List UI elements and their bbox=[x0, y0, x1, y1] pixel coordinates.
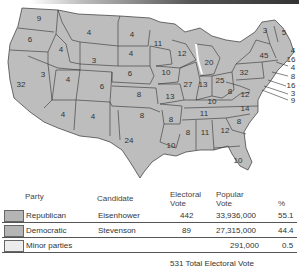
state-votes-al: 11 bbox=[201, 129, 209, 137]
candidate-cell: Eisenhower bbox=[98, 211, 140, 220]
swatch-democratic bbox=[4, 225, 24, 237]
percent-cell: 0.5 bbox=[282, 241, 293, 250]
header-popular: Popular Vote bbox=[216, 190, 246, 208]
state-votes-ar: 8 bbox=[169, 116, 173, 124]
header-electoral: Electoral Vote bbox=[170, 190, 200, 208]
us-electoral-map bbox=[0, 0, 299, 190]
table-row-republican: Republican Eisenhower 442 33,936,000 55.… bbox=[2, 208, 297, 223]
percent-cell: 55.1 bbox=[278, 211, 294, 220]
state-votes-wy: 3 bbox=[92, 57, 96, 65]
header-candidate: Candidate bbox=[97, 194, 133, 203]
table-row-democratic: Democratic Stevenson 89 27,315,000 44.4 bbox=[2, 223, 297, 238]
state-votes-sd: 4 bbox=[129, 50, 133, 58]
state-votes-tx: 24 bbox=[125, 137, 134, 145]
popular-cell: 27,315,000 bbox=[216, 226, 256, 235]
state-votes-mn: 11 bbox=[154, 40, 162, 48]
state-votes-ok: 8 bbox=[140, 112, 144, 120]
swatch-minor bbox=[4, 240, 24, 252]
header-party: Party bbox=[25, 192, 44, 201]
callout-votes: 4 bbox=[291, 64, 295, 72]
state-votes-co: 6 bbox=[100, 83, 104, 91]
state-votes-nd: 4 bbox=[130, 31, 134, 39]
party-cell: Minor parties bbox=[26, 241, 72, 250]
state-votes-ky: 10 bbox=[208, 98, 217, 106]
state-votes-ut: 4 bbox=[66, 76, 70, 84]
us-outline bbox=[8, 8, 294, 178]
total-electoral-vote: 531 Total Electoral Vote bbox=[170, 259, 254, 268]
state-votes-in: 13 bbox=[199, 81, 208, 89]
callout-votes: 5 bbox=[282, 29, 286, 37]
state-votes-or: 6 bbox=[28, 36, 32, 44]
candidate-cell: Stevenson bbox=[98, 226, 136, 235]
state-votes-wv: 8 bbox=[228, 88, 232, 96]
state-votes-ks: 8 bbox=[137, 91, 141, 99]
popular-cell: 291,000 bbox=[230, 241, 259, 250]
state-votes-tn: 11 bbox=[200, 110, 208, 118]
state-votes-la: 10 bbox=[167, 142, 176, 150]
table-row-minor: Minor parties 291,000 0.5 bbox=[2, 238, 297, 253]
state-votes-pa: 32 bbox=[240, 69, 249, 77]
state-votes-va: 12 bbox=[241, 91, 250, 99]
popular-cell: 33,936,000 bbox=[216, 211, 256, 220]
callout-votes: 9 bbox=[291, 97, 295, 105]
state-votes-ny: 45 bbox=[260, 52, 269, 60]
state-votes-nm: 4 bbox=[91, 113, 95, 121]
state-votes-ne: 6 bbox=[128, 70, 132, 78]
state-votes-nv: 3 bbox=[41, 71, 45, 79]
swatch-republican bbox=[4, 210, 24, 222]
state-votes-sc: 8 bbox=[237, 118, 241, 126]
state-votes-ms: 8 bbox=[186, 129, 190, 137]
party-cell: Republican bbox=[26, 211, 66, 220]
state-votes-ia: 10 bbox=[162, 69, 171, 77]
percent-cell: 44.4 bbox=[278, 226, 294, 235]
state-votes-mi: 20 bbox=[205, 59, 214, 67]
state-votes-wi: 12 bbox=[178, 50, 187, 58]
state-votes-fl: 10 bbox=[234, 157, 243, 165]
party-cell: Democratic bbox=[26, 226, 66, 235]
electoral-cell: 89 bbox=[182, 226, 191, 235]
electoral-cell: 442 bbox=[180, 211, 193, 220]
state-votes-mt: 4 bbox=[87, 29, 91, 37]
callout-votes: 3 bbox=[263, 27, 267, 35]
callout-votes: 8 bbox=[291, 73, 295, 81]
state-votes-ca: 32 bbox=[17, 81, 26, 89]
state-votes-oh: 25 bbox=[216, 77, 225, 85]
state-votes-az: 4 bbox=[61, 111, 65, 119]
state-votes-nc: 14 bbox=[241, 105, 250, 113]
state-votes-wa: 9 bbox=[37, 15, 41, 23]
header-percent: % bbox=[278, 199, 285, 208]
state-votes-id: 4 bbox=[59, 46, 63, 54]
state-votes-il: 27 bbox=[184, 81, 193, 89]
callout-votes: 4 bbox=[291, 47, 295, 55]
state-votes-ga: 12 bbox=[221, 127, 230, 135]
state-votes-mo: 13 bbox=[166, 93, 175, 101]
